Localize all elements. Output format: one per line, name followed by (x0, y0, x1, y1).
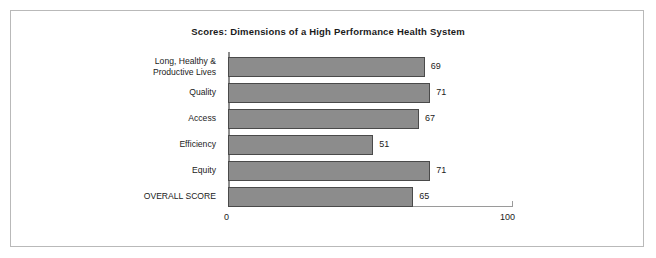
value-axis-tick-labels: 0100 (228, 212, 513, 226)
bar-value-label: 65 (419, 191, 429, 201)
category-label: Quality (189, 87, 216, 99)
bar[interactable] (228, 109, 419, 129)
category-label: Long, Healthy & Productive Lives (153, 56, 216, 79)
bar[interactable] (228, 187, 413, 207)
plot-area: 697167517165 0100 (228, 52, 513, 206)
bar-row: 69 (228, 57, 513, 77)
bar-value-label: 67 (425, 113, 435, 123)
category-label: Access (188, 113, 216, 125)
bar-value-label: 71 (436, 165, 446, 175)
category-label: OVERALL SCORE (144, 191, 216, 203)
category-label: Efficiency (179, 139, 216, 151)
category-axis-labels: Long, Healthy & Productive LivesQualityA… (20, 52, 222, 206)
chart-figure: Scores: Dimensions of a High Performance… (0, 0, 656, 258)
bar-row: 71 (228, 161, 513, 181)
bar[interactable] (228, 135, 373, 155)
bar[interactable] (228, 83, 430, 103)
bar-value-label: 69 (431, 61, 441, 71)
bar-row: 51 (228, 135, 513, 155)
bar-row: 65 (228, 187, 513, 207)
bar-value-label: 71 (436, 87, 446, 97)
bar-row: 71 (228, 83, 513, 103)
bar[interactable] (228, 161, 430, 181)
bar-row: 67 (228, 109, 513, 129)
bar[interactable] (228, 57, 425, 77)
bar-value-label: 51 (379, 139, 389, 149)
value-tick-label: 0 (224, 212, 229, 222)
category-label: Equity (192, 165, 216, 177)
chart-title: Scores: Dimensions of a High Performance… (0, 26, 656, 37)
value-tick-label: 100 (500, 212, 515, 222)
